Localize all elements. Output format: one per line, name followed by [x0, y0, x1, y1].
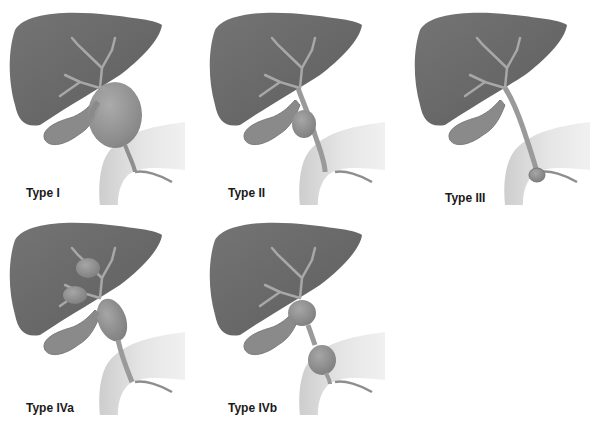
type-iva-label: Type IVa [26, 401, 74, 415]
type-ivb-label: Type IVb [228, 401, 277, 415]
type-iva-illustration [0, 210, 200, 415]
panel-type-iii: Type III [405, 0, 605, 205]
type-ivb-illustration [200, 210, 400, 415]
type-ii-label: Type II [228, 186, 265, 200]
panel-type-i: Type I [0, 0, 200, 205]
panel-type-ii: Type II [200, 0, 400, 205]
type-iii-label: Type III [445, 191, 485, 205]
type-iii-illustration [405, 0, 605, 205]
type-ii-illustration [200, 0, 400, 205]
type-i-illustration [0, 0, 200, 205]
panel-type-ivb: Type IVb [200, 210, 400, 415]
type-i-label: Type I [26, 186, 60, 200]
panel-type-iva: Type IVa [0, 210, 200, 415]
